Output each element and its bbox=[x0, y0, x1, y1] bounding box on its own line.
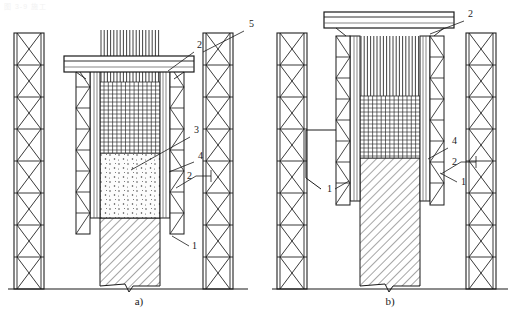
callout-a-1: 2 bbox=[197, 39, 202, 50]
callout-b-4: 1 bbox=[327, 183, 332, 194]
climbing-frame-left-a bbox=[76, 66, 90, 234]
callout-b-0: 2 bbox=[468, 8, 473, 19]
climbing-frame-right-b bbox=[430, 36, 444, 205]
hanger-bracket-b bbox=[306, 130, 336, 189]
callout-a-3: 4 bbox=[198, 150, 203, 161]
callout-a-4: 2 bbox=[187, 170, 192, 181]
formwork-left-a bbox=[90, 62, 100, 218]
callout-b-3: 1 bbox=[461, 176, 466, 187]
climbing-frame-left-b bbox=[336, 36, 350, 205]
guide-tower-right-a bbox=[203, 33, 233, 289]
fresh-concrete-a bbox=[100, 153, 160, 218]
rebar-dowels-b bbox=[361, 36, 419, 96]
callout-a-2: 3 bbox=[194, 124, 199, 135]
panel-a-caption: a) bbox=[135, 295, 144, 308]
panel-b-caption: b) bbox=[385, 295, 395, 308]
rebar-mesh-b bbox=[360, 96, 420, 158]
formwork-left-b bbox=[350, 36, 360, 201]
technical-diagram-figure: 5 2 3 4 2 1 a) bbox=[0, 0, 513, 320]
callout-a-0: 5 bbox=[249, 18, 254, 29]
formwork-right-b bbox=[420, 36, 430, 201]
rebar-mesh-a bbox=[100, 82, 160, 153]
guide-tower-right-b bbox=[466, 33, 496, 289]
hardened-concrete-a bbox=[100, 218, 160, 292]
guide-tower-left-a bbox=[14, 33, 44, 289]
climbing-frame-right-a bbox=[170, 66, 184, 234]
guide-tower-left-b bbox=[277, 33, 307, 289]
hardened-concrete-b bbox=[360, 158, 420, 292]
diagram-svg: 5 2 3 4 2 1 a) bbox=[0, 0, 513, 320]
formwork-right-a bbox=[160, 62, 170, 218]
callout-b-1: 4 bbox=[452, 135, 457, 146]
callout-b-2: 2 bbox=[452, 156, 457, 167]
panel-b-group: 2 4 2 1 1 b) bbox=[272, 8, 508, 308]
panel-a-group: 5 2 3 4 2 1 a) bbox=[8, 18, 254, 308]
callout-a-5: 1 bbox=[192, 240, 197, 251]
